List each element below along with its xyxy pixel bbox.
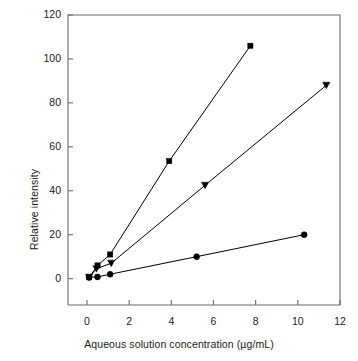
y-tick-label-6: 120 [27,8,61,20]
data-series-group [85,43,329,281]
series-circle-point-0 [86,274,92,280]
series-circle-point-3 [194,254,200,260]
y-tick-label-1: 20 [27,228,61,240]
x-axis-title: Aqueous solution concentration (µg/mL) [0,338,358,350]
x-tick-label-1: 2 [114,315,144,327]
x-tick-label-4: 8 [241,315,271,327]
series-square-point-2 [108,252,113,257]
y-tick-label-4: 80 [27,96,61,108]
x-tick-label-3: 6 [198,315,228,327]
series-square-point-4 [248,43,253,48]
series-triangle [85,82,329,280]
x-tick-label-2: 4 [156,315,186,327]
series-square [86,43,253,280]
series-circle-point-2 [107,271,113,277]
y-tick-label-5: 100 [27,52,61,64]
chart-container: Aqueous solution concentration (µg/mL) R… [0,0,358,361]
series-square-point-3 [167,158,172,163]
x-tick-label-5: 10 [283,315,313,327]
series-triangle-point-2 [108,260,115,266]
x-tick-label-6: 12 [325,315,355,327]
series-triangle-line [89,85,326,277]
series-circle-point-1 [95,274,101,280]
series-circle-point-4 [301,232,307,238]
y-tick-label-3: 60 [27,140,61,152]
y-tick-label-0: 0 [27,272,61,284]
y-tick-label-2: 40 [27,184,61,196]
x-tick-label-0: 0 [72,315,102,327]
